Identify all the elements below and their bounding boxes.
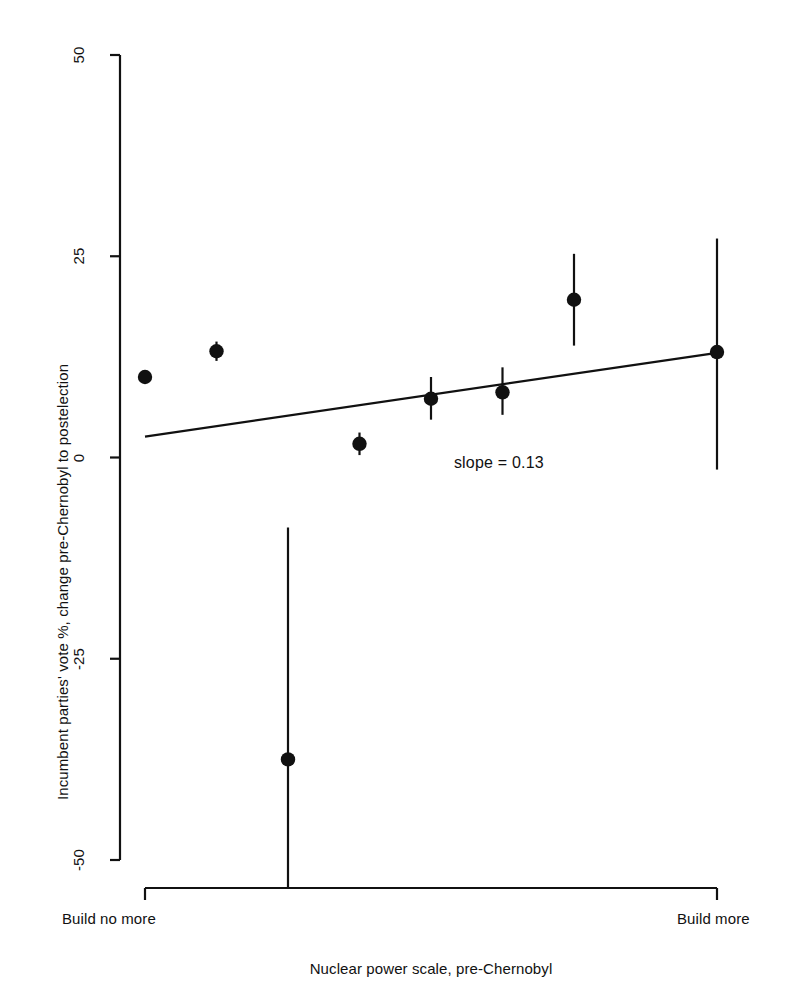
y-tick-label-25: 25 [69,233,89,279]
x-tick-label-build-more: Build more [677,910,750,927]
chart-container: Incumbent parties' vote %, change pre-Ch… [0,0,801,1003]
y-tick-label-neg25: -25 [69,636,89,682]
data-point [138,370,152,384]
y-tick-label-neg50: -50 [69,837,89,883]
data-point [209,344,223,358]
x-tick-label-build-no-more: Build no more [62,910,156,927]
data-point [495,385,509,399]
data-point [710,345,724,359]
slope-annotation: slope = 0.13 [454,454,544,472]
errorbar-group [217,239,718,888]
data-point [424,392,438,406]
data-point [352,437,366,451]
y-tick-label-50: 50 [69,32,89,78]
data-point [567,293,581,307]
data-point [281,752,295,766]
y-tick-label-0: 0 [69,435,89,481]
axes-group [110,55,717,900]
x-axis-title: Nuclear power scale, pre-Chernobyl [145,960,717,977]
plot-area [0,0,801,1003]
